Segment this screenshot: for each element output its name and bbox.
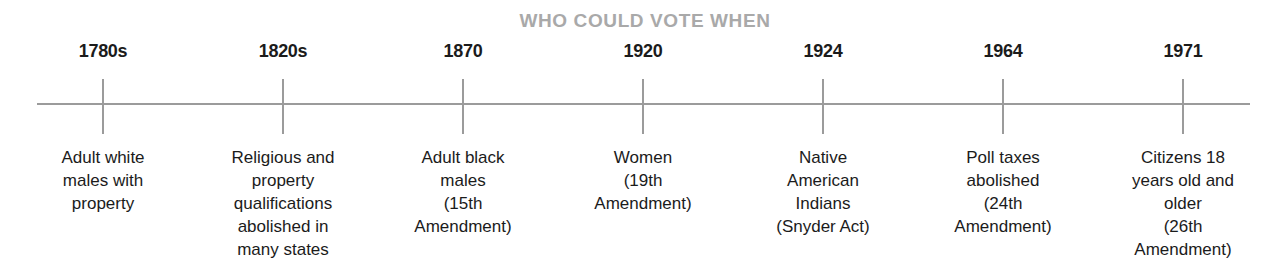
page-title: WHO COULD VOTE WHEN — [0, 10, 1284, 32]
event-description-1870: Adult black males (15th Amendment) — [375, 146, 551, 238]
year-label-1924: 1924 — [738, 41, 908, 62]
event-description-1924: Native American Indians (Snyder Act) — [735, 146, 911, 238]
tick-mark-1964 — [1002, 79, 1004, 134]
timeline-figure: WHO COULD VOTE WHEN 1780s1820s1870192019… — [0, 0, 1284, 277]
year-label-1971: 1971 — [1098, 41, 1268, 62]
year-label-1964: 1964 — [918, 41, 1088, 62]
tick-mark-1870 — [462, 79, 464, 134]
year-label-1820s: 1820s — [198, 41, 368, 62]
year-label-1920: 1920 — [558, 41, 728, 62]
tick-mark-1924 — [822, 79, 824, 134]
tick-mark-1780s — [102, 79, 104, 134]
event-description-1964: Poll taxes abolished (24th Amendment) — [915, 146, 1091, 238]
event-description-1971: Citizens 18 years old and older (26th Am… — [1095, 146, 1271, 261]
year-label-1780s: 1780s — [18, 41, 188, 62]
event-description-1780s: Adult white males with property — [15, 146, 191, 215]
tick-mark-1820s — [282, 79, 284, 134]
tick-mark-1920 — [642, 79, 644, 134]
event-description-1920: Women (19th Amendment) — [555, 146, 731, 215]
event-description-1820s: Religious and property qualifications ab… — [195, 146, 371, 261]
tick-mark-1971 — [1182, 79, 1184, 134]
year-label-1870: 1870 — [378, 41, 548, 62]
